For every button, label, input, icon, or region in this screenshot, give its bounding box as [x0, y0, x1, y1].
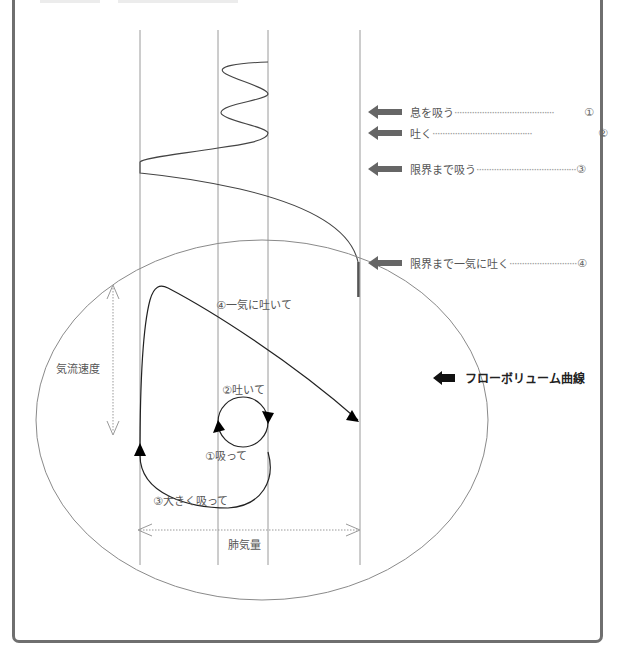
legend-label: 吐く: [410, 125, 432, 141]
gray-left-arrow-icon: [368, 126, 404, 140]
step2-annotation: ②吐いて: [222, 385, 265, 396]
arrowhead-tidal-right: [262, 411, 274, 424]
volume-axis-arrow: [138, 524, 360, 536]
spirogram-trace: [140, 62, 358, 297]
flow-volume-ellipse: [36, 240, 488, 600]
legend-row-forced-exhale: 限界まで一気に吐く ······························…: [368, 256, 587, 270]
legend-number: ③: [576, 163, 586, 176]
legend-number: ④: [577, 257, 587, 270]
gray-left-arrow-icon: [368, 105, 404, 119]
volume-guide-lines: [140, 30, 360, 565]
legend-row-max-inhale: 限界まで吸う ·································…: [368, 162, 586, 176]
gray-left-arrow-icon: [368, 162, 404, 176]
spirometry-diagram: [0, 0, 625, 661]
legend-number: ②: [598, 127, 608, 140]
step3-annotation: ③大きく吸って: [153, 496, 228, 507]
step1-annotation: ①吸って: [205, 451, 247, 462]
legend-row-inhale: 息を吸う ···································…: [368, 105, 594, 119]
arrowhead-up-left: [134, 443, 146, 456]
legend-number: ①: [584, 106, 594, 119]
arrowhead-tidal-left: [213, 420, 225, 433]
step4-annotation: ④一気に吐いて: [216, 300, 292, 311]
tidal-loop: [218, 397, 268, 447]
flow-rate-axis-label: 気流速度: [56, 364, 100, 375]
legend-label: 限界まで一気に吐く: [410, 255, 509, 271]
black-left-arrow-icon: [433, 371, 457, 385]
legend-row-exhale: 吐く ·····································…: [368, 126, 608, 140]
lung-volume-axis-label: 肺気量: [228, 540, 261, 551]
flow-axis-arrow: [107, 285, 119, 435]
legend-label: 息を吸う: [410, 104, 454, 120]
flow-volume-label: フローボリューム曲線: [433, 369, 585, 386]
legend-label: 限界まで吸う: [410, 161, 476, 177]
gray-left-arrow-icon: [368, 256, 404, 270]
